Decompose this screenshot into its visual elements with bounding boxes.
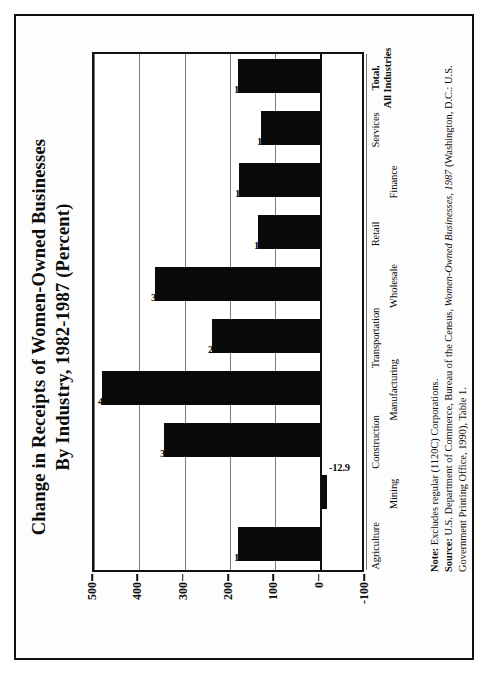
scanned-page: Change in Receipts of Women-Owned Busine… bbox=[0, 0, 488, 674]
y-axis-tick-mark bbox=[137, 574, 139, 581]
source-label: Source: bbox=[443, 538, 454, 572]
bar bbox=[164, 423, 320, 457]
x-axis-category-labels: AgricultureMiningConstructionManufacturi… bbox=[368, 52, 420, 572]
category-label: Retail bbox=[370, 222, 381, 247]
category-label: Agriculture bbox=[370, 522, 381, 570]
chart-title-line-2: By Industry, 1982-1987 (Percent) bbox=[52, 16, 76, 658]
y-axis-tick-label: 400 bbox=[130, 582, 145, 600]
y-axis-tick-label: 500 bbox=[85, 582, 100, 600]
y-axis-tick-labels: 5004003002001000-100 bbox=[92, 574, 364, 658]
y-axis-tick-mark bbox=[227, 574, 229, 581]
category-label: Finance bbox=[388, 166, 399, 199]
category-label: Mining bbox=[388, 479, 399, 510]
chart-title: Change in Receipts of Women-Owned Busine… bbox=[28, 16, 75, 658]
y-axis-tick-mark bbox=[273, 574, 275, 581]
category-label: Total,All Industries bbox=[370, 48, 394, 109]
category-label: Wholesale bbox=[388, 264, 399, 308]
chart-title-line-1: Change in Receipts of Women-Owned Busine… bbox=[29, 139, 49, 535]
y-axis-tick-label: 0 bbox=[311, 582, 326, 588]
category-label: Services bbox=[370, 112, 381, 147]
bar-value-label: -12.9 bbox=[329, 462, 350, 473]
figure-border: Change in Receipts of Women-Owned Busine… bbox=[14, 14, 474, 660]
y-axis-tick-mark bbox=[318, 574, 320, 581]
category-label: Construction bbox=[370, 415, 381, 469]
bar-value-label: 483.0 bbox=[98, 396, 121, 407]
bar-value-label: 344.7 bbox=[160, 448, 183, 459]
y-axis-tick-mark bbox=[182, 574, 184, 581]
rotated-figure-canvas: Change in Receipts of Women-Owned Busine… bbox=[0, 0, 488, 674]
y-axis-tick-label: -100 bbox=[357, 582, 372, 604]
figure-footnotes: Note: Excludes regular (1120C) Corporati… bbox=[428, 40, 470, 572]
source-line: Source: U.S. Department of Commerce, Bur… bbox=[442, 40, 470, 572]
source-text-a: U.S. Department of Commerce, Bureau of t… bbox=[443, 306, 454, 538]
bar-value-label: 132.6 bbox=[257, 136, 280, 147]
bar-series: 181.9-12.9344.7483.0238.7365.8138.2180.0… bbox=[94, 54, 362, 570]
bar-value-label: 365.8 bbox=[151, 292, 174, 303]
bar-value-label: 183.0 bbox=[234, 84, 257, 95]
note-label: Note: bbox=[429, 548, 440, 572]
bar bbox=[321, 475, 327, 509]
category-label: Transportation bbox=[370, 308, 381, 369]
gridline bbox=[366, 54, 367, 570]
bar bbox=[102, 371, 321, 405]
bar-value-label: 181.9 bbox=[234, 552, 257, 563]
note-line: Note: Excludes regular (1120C) Corporati… bbox=[428, 40, 442, 572]
category-label-total-line1: Total, bbox=[370, 48, 382, 109]
bar-value-label: 180.0 bbox=[235, 188, 258, 199]
bar-value-label: 238.7 bbox=[208, 344, 231, 355]
category-label: Manufacturing bbox=[388, 359, 399, 421]
plot-area: 181.9-12.9344.7483.0238.7365.8138.2180.0… bbox=[92, 52, 364, 572]
category-label-total-line2: All Industries bbox=[382, 48, 394, 109]
note-text: Excludes regular (1120C) Corporations. bbox=[429, 379, 440, 548]
source-title-italic: Women-Owned Businesses, 1987 bbox=[443, 170, 454, 307]
bar-value-label: 138.2 bbox=[254, 240, 277, 251]
y-axis-tick-mark bbox=[91, 574, 93, 581]
y-axis-tick-mark bbox=[363, 574, 365, 581]
y-axis-tick-label: 300 bbox=[175, 582, 190, 600]
y-axis-tick-label: 100 bbox=[266, 582, 281, 600]
bar bbox=[155, 267, 321, 301]
y-axis-tick-label: 200 bbox=[221, 582, 236, 600]
